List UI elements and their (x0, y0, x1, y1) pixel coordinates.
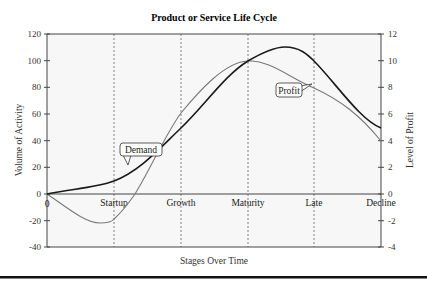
bottom-rule (0, 276, 427, 279)
svg-text:80: 80 (32, 82, 42, 92)
left-tick-labels: 120 100 80 60 40 20 0 -20 -40 (28, 29, 42, 252)
y-axis-label: Volume of Activity (14, 103, 24, 176)
svg-text:Growth: Growth (166, 198, 195, 208)
svg-text:Maturity: Maturity (231, 198, 264, 208)
svg-text:Decline: Decline (366, 198, 396, 208)
svg-text:6: 6 (388, 109, 393, 119)
svg-text:Profit: Profit (278, 86, 300, 96)
svg-text:-40: -40 (29, 242, 41, 252)
svg-text:-4: -4 (388, 242, 396, 252)
svg-text:20: 20 (32, 162, 42, 172)
svg-text:-2: -2 (388, 216, 396, 226)
svg-text:120: 120 (28, 29, 42, 39)
svg-text:4: 4 (388, 136, 393, 146)
svg-text:10: 10 (388, 56, 398, 66)
x-axis-label: Stages Over Time (180, 256, 248, 266)
origin-label: 0 (45, 199, 50, 209)
svg-text:Startup: Startup (100, 198, 128, 208)
right-tick-labels: 12 10 8 6 4 2 0 -2 -4 (388, 29, 398, 252)
svg-text:8: 8 (388, 82, 393, 92)
svg-text:2: 2 (388, 162, 393, 172)
svg-text:Demand: Demand (125, 145, 157, 155)
life-cycle-chart: Product or Service Life Cycle 120 100 80… (0, 0, 427, 284)
svg-text:100: 100 (28, 56, 42, 66)
plot-area (47, 34, 381, 247)
svg-text:Late: Late (306, 198, 323, 208)
svg-text:0: 0 (37, 189, 42, 199)
chart-title: Product or Service Life Cycle (151, 12, 277, 23)
svg-text:12: 12 (388, 29, 397, 39)
svg-text:40: 40 (32, 136, 42, 146)
svg-text:60: 60 (32, 109, 42, 119)
y2-axis-label: Level of Profit (405, 112, 415, 168)
svg-text:-20: -20 (29, 216, 41, 226)
